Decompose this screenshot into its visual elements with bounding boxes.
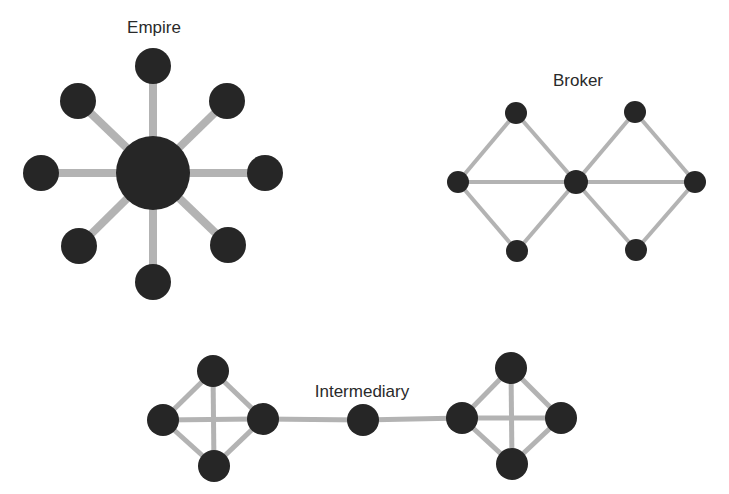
broker-edge-l-bl xyxy=(458,182,517,251)
empire-node-hub xyxy=(116,136,190,210)
intermediary-node-b_r xyxy=(545,402,577,434)
intermediary-node-a_b xyxy=(198,450,230,482)
intermediary-node-b_t xyxy=(495,352,527,384)
empire-node-n xyxy=(135,48,171,84)
broker-edge-br-r xyxy=(636,182,695,250)
broker-node-br xyxy=(625,239,647,261)
empire-label: Empire xyxy=(127,18,181,37)
empire-node-se xyxy=(210,227,246,263)
broker-edge-bl-c xyxy=(517,182,576,251)
intermediary-node-b_l xyxy=(446,402,478,434)
empire-node-w xyxy=(23,155,59,191)
intermediary-label: Intermediary xyxy=(315,382,410,401)
intermediary-node-b_b xyxy=(496,448,528,480)
broker-edge-l-tl xyxy=(458,113,516,182)
broker-node-tl xyxy=(505,102,527,124)
broker-network: Broker xyxy=(447,71,706,262)
broker-label: Broker xyxy=(553,71,603,90)
broker-edge-tl-c xyxy=(516,113,576,182)
broker-node-bl xyxy=(506,240,528,262)
empire-node-ne xyxy=(209,83,245,119)
empire-node-sw xyxy=(61,228,97,264)
empire-node-nw xyxy=(60,83,96,119)
broker-node-r xyxy=(684,171,706,193)
broker-node-tr xyxy=(624,101,646,123)
broker-edge-c-tr xyxy=(576,112,635,182)
intermediary-node-a_t xyxy=(197,355,229,387)
intermediary-node-a_l xyxy=(147,404,179,436)
network-diagram: Empire Broker Intermediary xyxy=(0,0,729,494)
empire-network: Empire xyxy=(23,18,283,300)
empire-node-e xyxy=(247,155,283,191)
intermediary-node-mid xyxy=(347,404,379,436)
broker-edge-c-br xyxy=(576,182,636,250)
broker-edge-tr-r xyxy=(635,112,695,182)
empire-node-s xyxy=(135,264,171,300)
intermediary-network: Intermediary xyxy=(147,352,577,482)
broker-node-c xyxy=(564,170,588,194)
broker-node-l xyxy=(447,171,469,193)
intermediary-node-a_r xyxy=(247,403,279,435)
